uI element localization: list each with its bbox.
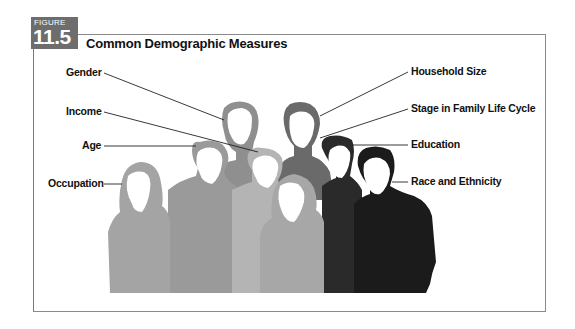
label-stage-in-family-life-cycle: Stage in Family Life Cycle xyxy=(411,102,535,114)
label-income: Income xyxy=(66,105,102,117)
label-age: Age xyxy=(82,139,101,151)
label-race-and-ethnicity: Race and Ethnicity xyxy=(411,175,501,187)
stage-leader-line xyxy=(320,109,408,138)
household-size-leader-line xyxy=(320,72,408,116)
occupation-person-silhouette xyxy=(108,162,170,293)
label-household-size: Household Size xyxy=(411,65,486,77)
age-person-silhouette xyxy=(168,140,236,293)
race-person-silhouette xyxy=(354,146,436,293)
gender-leader-line xyxy=(104,73,224,120)
demographic-silhouettes xyxy=(0,0,575,329)
label-gender: Gender xyxy=(66,66,102,78)
label-occupation: Occupation xyxy=(48,177,104,189)
label-education: Education xyxy=(411,138,460,150)
